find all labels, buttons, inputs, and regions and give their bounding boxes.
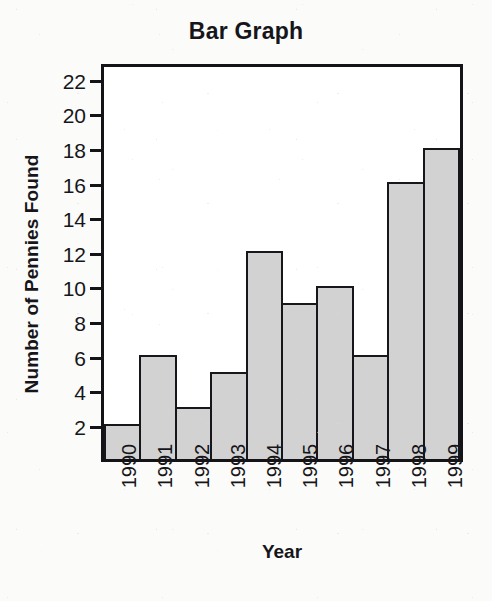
x-tick-1998: 1998 xyxy=(391,466,427,544)
y-tick-mark xyxy=(90,149,101,152)
y-tick-mark xyxy=(90,218,101,221)
x-tick-1995: 1995 xyxy=(282,466,318,544)
y-axis-title: Number of Pennies Found xyxy=(21,109,43,439)
y-tick-mark xyxy=(90,287,101,290)
x-tick-1993: 1993 xyxy=(210,466,246,544)
y-tick-label: 20 xyxy=(63,105,90,126)
x-tick-1997: 1997 xyxy=(354,466,390,544)
y-tick-label: 2 xyxy=(74,417,90,438)
x-tick-1992: 1992 xyxy=(173,466,209,544)
y-tick-label: 8 xyxy=(74,313,90,334)
y-tick-mark xyxy=(90,253,101,256)
bar-1994 xyxy=(246,251,283,459)
x-axis-title: Year xyxy=(101,541,463,563)
x-tick-1991: 1991 xyxy=(137,466,173,544)
x-tick-1996: 1996 xyxy=(318,466,354,544)
bar-1999 xyxy=(423,148,460,459)
y-tick-label: 10 xyxy=(63,278,90,299)
x-axis-tick-labels: 1990199119921993199419951996199719981999 xyxy=(101,466,463,544)
y-tick-mark xyxy=(90,114,101,117)
y-tick-mark xyxy=(90,184,101,187)
bar-1995 xyxy=(281,303,318,459)
bar-1996 xyxy=(316,286,353,459)
y-tick-label: 6 xyxy=(74,348,90,369)
y-tick-label: 12 xyxy=(63,244,90,265)
y-tick-label: 22 xyxy=(63,71,90,92)
y-tick-mark xyxy=(90,357,101,360)
y-tick-mark xyxy=(90,80,101,83)
y-tick-mark xyxy=(90,322,101,325)
x-tick-1990: 1990 xyxy=(101,466,137,544)
y-axis: Number of Pennies Found 2468101214161820… xyxy=(0,0,101,601)
y-tick-label: 18 xyxy=(63,140,90,161)
y-tick-mark xyxy=(90,391,101,394)
bar-chart-figure: Bar Graph Number of Pennies Found 246810… xyxy=(0,0,492,601)
y-tick-label: 14 xyxy=(63,209,90,230)
x-tick-label: 1999 xyxy=(444,444,467,489)
plot-area xyxy=(101,64,463,462)
x-tick-1999: 1999 xyxy=(427,466,463,544)
y-tick-label: 4 xyxy=(74,382,90,403)
y-tick-mark xyxy=(90,426,101,429)
bar-1998 xyxy=(387,182,424,459)
x-tick-1994: 1994 xyxy=(246,466,282,544)
bars-container xyxy=(104,67,460,459)
y-tick-label: 16 xyxy=(63,175,90,196)
